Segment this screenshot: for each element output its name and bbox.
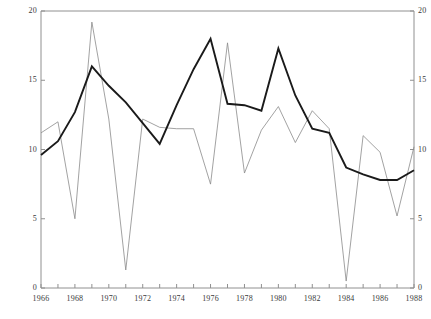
chart-plot-area	[0, 0, 431, 319]
y-axis-left-label-10: 10	[13, 145, 37, 154]
x-axis-label-1980: 1980	[262, 294, 294, 303]
y-axis-right-label-10: 10	[418, 145, 431, 154]
x-axis-label-1978: 1978	[228, 294, 260, 303]
chart-container: 1966196819701972197419761978198019821984…	[0, 0, 431, 319]
y-axis-left-ticks	[41, 11, 45, 288]
x-axis-label-1970: 1970	[93, 294, 125, 303]
x-axis-label-1986: 1986	[364, 294, 396, 303]
y-axis-left-label-0: 0	[13, 283, 37, 292]
x-axis-ticks	[41, 284, 414, 288]
y-axis-left-label-20: 20	[13, 6, 37, 15]
y-axis-left-label-15: 15	[13, 75, 37, 84]
y-axis-right-label-0: 0	[418, 283, 431, 292]
series-line-thick	[41, 39, 414, 180]
x-axis-label-1974: 1974	[161, 294, 193, 303]
x-axis-label-1984: 1984	[330, 294, 362, 303]
y-axis-right-label-20: 20	[418, 6, 431, 15]
x-axis-label-1988: 1988	[398, 294, 430, 303]
y-axis-left-label-5: 5	[13, 214, 37, 223]
x-axis-label-1982: 1982	[296, 294, 328, 303]
y-axis-right-label-15: 15	[418, 75, 431, 84]
x-axis-label-1966: 1966	[25, 294, 57, 303]
y-axis-right-label-5: 5	[418, 214, 431, 223]
x-axis-label-1968: 1968	[59, 294, 91, 303]
x-axis-label-1972: 1972	[127, 294, 159, 303]
series-line-thin	[41, 22, 414, 281]
x-axis-label-1976: 1976	[195, 294, 227, 303]
